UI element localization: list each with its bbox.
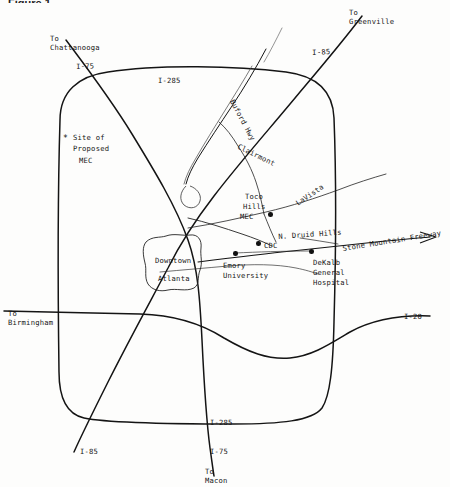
site-proposed-mec-label-line1: Site of [73,133,105,142]
dekalb-general-hospital-label-line1: DeKalb [313,258,340,267]
site-proposed-mec-star-icon: * [63,135,68,143]
i85-label-bottom: I-85 [80,447,98,456]
to-greenville-label-line2: Greenville [349,17,394,26]
to-birmingham-label-line1: To [8,309,17,318]
toco-hills-mec-label-line3: MEC [240,212,254,221]
toco-hills-mec-dot-icon [268,212,273,217]
downtown-atlanta-label-line1: Downtown [155,256,191,265]
cdc-label: CDC [264,241,278,250]
dekalb-general-hospital-label-line3: Hospital [313,278,349,287]
to-macon-label-line2: Macon [205,476,228,485]
toco-hills-mec-label-line2: Hills [243,202,266,211]
i75-label-top: I-75 [76,61,94,71]
road-clairmont-lower [264,214,276,242]
highway-i75 [66,40,214,476]
i20-label: I-20 [404,312,422,321]
i285-label-bottom: I-285 [210,418,233,427]
to-chattanooga-label-line2: Chattanooga [50,43,100,52]
highway-i285-perimeter [58,67,335,424]
to-chattanooga-label-line1: To [50,34,59,43]
dekalb-general-hospital-dot-icon [309,249,314,254]
toco-hills-mec-label-line1: Toco [245,192,263,201]
site-proposed-mec-label-line2: Proposed [73,144,109,153]
i285-label-top: I-285 [158,76,181,85]
map-figure: Figure 1. * [0,0,450,487]
site-proposed-mec-label-line3: MEC [79,156,93,165]
downtown-atlanta-label-line2: Atlanta [158,274,190,283]
highway-i20 [4,311,430,358]
dekalb-general-hospital-label-line2: General [313,268,345,277]
emory-university-dot-icon [233,251,238,256]
to-greenville-label-line1: To [349,8,358,17]
to-macon-label-line1: To [205,467,214,476]
emory-university-label-line2: University [223,271,268,280]
emory-university-label-line1: Emory [223,261,246,270]
i85-label-top: I-85 [312,47,331,57]
road-lavista [188,174,386,228]
road-buford-hwy-upper-thin [264,28,282,62]
cdc-dot-icon [256,241,261,246]
i75-label-bottom: I-75 [210,447,228,456]
buford-interchange-loop-icon [181,186,201,208]
to-birmingham-label-line2: Birmingham [8,318,53,327]
